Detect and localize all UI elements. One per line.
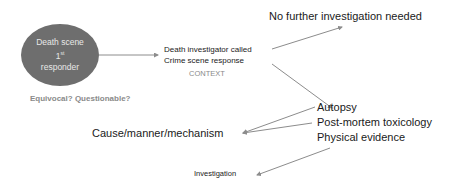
cause-manner-label: Cause/manner/mechanism: [92, 127, 223, 139]
responder-line1: Death scene: [36, 37, 84, 48]
crime-scene-label: Crime scene response: [164, 56, 244, 65]
investigator-called-label: Death investigator called: [164, 45, 252, 54]
context-label: CONTEXT: [189, 69, 225, 78]
no-further-label: No further investigation needed: [269, 10, 422, 22]
arrow-to-no-further: [272, 27, 342, 49]
arrow-evidence-to-investigation: [257, 148, 330, 175]
equivocal-label: Equivocal? Questionable?: [30, 94, 130, 103]
physical-evidence-label: Physical evidence: [317, 131, 405, 143]
investigation-label: Investigation: [194, 169, 236, 178]
arrow-tox-to-cause: [243, 123, 312, 133]
arrow-autopsy-to-cause: [243, 107, 315, 133]
responder-line2: 1st: [56, 48, 65, 62]
toxicology-label: Post-mortem toxicology: [317, 116, 432, 128]
autopsy-label: Autopsy: [317, 101, 357, 113]
first-responder-node: Death scene 1st responder: [21, 24, 99, 86]
responder-line3: responder: [41, 62, 79, 73]
